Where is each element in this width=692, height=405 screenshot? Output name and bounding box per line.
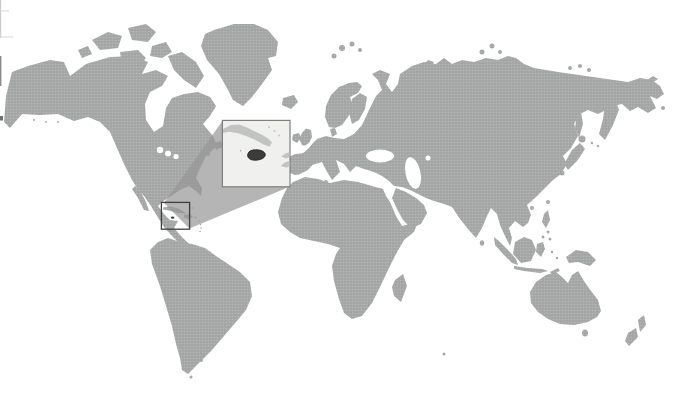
island-severnaya-zemlya xyxy=(490,44,495,49)
scan-artifact-line xyxy=(0,56,1,86)
island-speck xyxy=(45,121,47,123)
aral-sea xyxy=(426,156,431,161)
island-sulawesi xyxy=(536,242,545,257)
landmass-denmark xyxy=(330,128,337,137)
island-svalbard xyxy=(350,42,355,47)
island-new-zealand-north xyxy=(638,315,646,332)
island-new-zealand-south xyxy=(625,328,638,346)
island-tasmania xyxy=(582,330,588,337)
island-moluccas xyxy=(556,257,558,259)
island-kuril xyxy=(597,145,599,147)
arctic-island xyxy=(78,46,92,58)
inset-island-bahamas xyxy=(278,135,280,137)
island-speck xyxy=(443,353,446,356)
island-tierra-del-fuego xyxy=(189,375,192,378)
island-philippines xyxy=(547,231,550,234)
island-new-siberian xyxy=(578,64,582,68)
scan-artifact-tick xyxy=(0,116,3,121)
inset-magnifier-box xyxy=(222,120,290,186)
island-great-britain xyxy=(299,129,312,146)
island-severnaya-zemlya xyxy=(498,50,502,54)
island-new-siberian xyxy=(587,68,591,72)
world-landmasses xyxy=(4,24,665,379)
island-sri-lanka xyxy=(480,240,484,246)
island-kyushu xyxy=(560,171,565,176)
island-speck xyxy=(33,119,35,121)
scan-artifact-line xyxy=(0,11,9,12)
island-philippines xyxy=(542,236,545,239)
great-lake xyxy=(157,147,163,153)
jamaica-highlight-main-map xyxy=(171,216,175,218)
island-lesser-antilles xyxy=(200,227,202,229)
island-svalbard xyxy=(339,45,345,51)
island-falklands xyxy=(199,358,203,362)
arctic-island xyxy=(128,24,156,42)
island-ireland xyxy=(292,133,301,143)
landmass-greenland xyxy=(201,24,278,106)
island-svalbard xyxy=(358,48,362,52)
island-svalbard xyxy=(332,54,337,59)
island-luzon xyxy=(542,210,550,228)
island-speck xyxy=(57,121,59,123)
island-new-guinea xyxy=(566,250,596,266)
island-iceland xyxy=(282,95,298,109)
island-baffin xyxy=(168,52,204,88)
island-moluccas xyxy=(551,251,553,253)
inset-island-bahamas xyxy=(268,126,270,128)
inset-island-bahamas xyxy=(274,130,276,132)
arctic-island xyxy=(92,32,122,50)
island-java xyxy=(514,266,548,273)
landmass-finland xyxy=(349,93,367,124)
island-kuril xyxy=(591,142,593,144)
scan-artifact-line xyxy=(0,37,13,38)
island-taiwan xyxy=(546,200,550,204)
jamaica-highlight-inset xyxy=(248,150,266,160)
island-new-siberian xyxy=(568,66,572,70)
island-madagascar xyxy=(392,274,407,302)
island-hainan xyxy=(530,206,534,210)
island-severnaya-zemlya xyxy=(480,50,485,55)
island-bering xyxy=(661,106,665,110)
island-borneo xyxy=(513,237,536,263)
island-hokkaido xyxy=(579,136,586,143)
island-lesser-antilles xyxy=(199,231,201,233)
landmass-south-america xyxy=(150,238,252,374)
black-sea xyxy=(366,150,394,163)
arctic-island xyxy=(150,42,172,58)
scan-artifact-line xyxy=(0,0,1,38)
inset-island-cayman xyxy=(240,150,241,151)
landmass-australia xyxy=(530,271,601,325)
world-map-canvas xyxy=(0,0,692,405)
great-lake xyxy=(165,151,171,157)
island-philippines xyxy=(549,238,552,241)
great-lake xyxy=(173,154,178,159)
world-locator-map-figure xyxy=(0,0,692,405)
